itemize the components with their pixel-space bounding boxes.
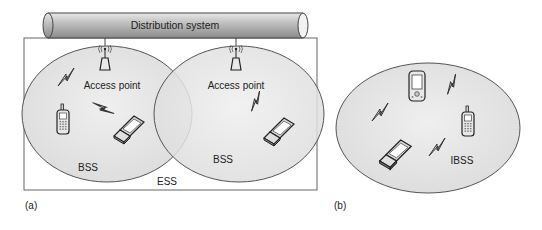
access-point-label: Access point [208, 80, 265, 91]
ibss-label: IBSS [451, 155, 474, 166]
ibss-cell [336, 63, 520, 193]
ess-label: ESS [157, 176, 177, 187]
panel-a-label: (a) [25, 200, 37, 211]
bss-label: BSS [78, 162, 98, 173]
wireless-network-diagram: Access point Access point BSS BSS ESS (a… [0, 0, 542, 230]
panel-b-label: (b) [334, 200, 346, 211]
distribution-system-label: Distribution system [131, 19, 220, 31]
access-point-label: Access point [84, 80, 141, 91]
bss-label: BSS [213, 154, 233, 165]
pda-icon [409, 71, 425, 101]
